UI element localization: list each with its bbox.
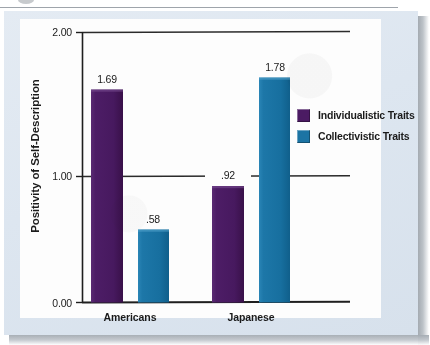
bar-americans-individualistic [91, 90, 123, 303]
x-tick-label-americans: Americans [85, 311, 175, 323]
gridline-2.00 [82, 32, 350, 33]
bar-japanese-individualistic [212, 186, 244, 303]
legend-swatch-collectivistic-icon [297, 130, 310, 143]
bar-americans-individualistic-highlight [91, 90, 123, 92]
y-tick-label-2: 2.00 [38, 26, 72, 38]
value-label-japanese-individualistic: .92 [205, 169, 251, 181]
y-tick-label-1: 1.00 [38, 170, 72, 182]
y-axis-title: Positivity of Self-Description [29, 51, 41, 261]
y-tick-label-0: 0.00 [38, 297, 72, 309]
figure-root: Positivity of Self-Description 2.00 1.00… [0, 0, 430, 345]
bar-americans-collectivistic [138, 230, 169, 303]
value-label-americans-individualistic: 1.69 [84, 73, 130, 85]
bar-japanese-collectivistic [259, 78, 290, 303]
bar-japanese-individualistic-highlight [212, 186, 244, 188]
legend-item-individualistic: Individualistic Traits [297, 106, 415, 124]
x-tick-label-japanese: Japanese [206, 311, 296, 323]
bar-japanese-collectivistic-highlight [259, 78, 290, 80]
legend-label-collectivistic: Collectivistic Traits [318, 130, 410, 142]
value-label-americans-collectivistic: .58 [130, 213, 176, 225]
legend-label-individualistic: Individualistic Traits [318, 109, 415, 121]
value-label-japanese-collectivistic: 1.78 [252, 61, 298, 73]
bar-chart: Positivity of Self-Description 2.00 1.00… [0, 0, 430, 345]
chart-legend: Individualistic Traits Collectivistic Tr… [297, 106, 415, 148]
legend-swatch-individualistic-icon [297, 109, 310, 122]
bar-americans-collectivistic-highlight [138, 230, 169, 232]
legend-item-collectivistic: Collectivistic Traits [297, 127, 415, 145]
